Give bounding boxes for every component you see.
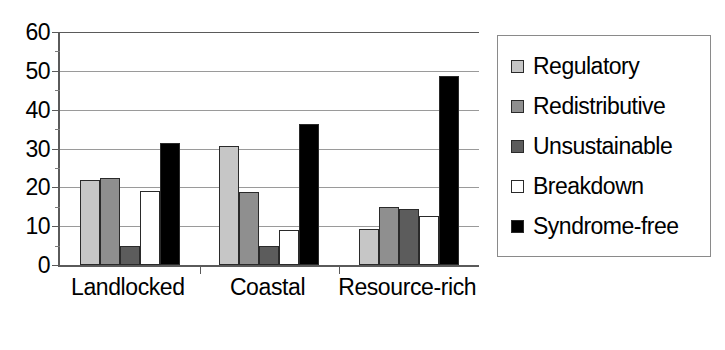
bar-resource-rich-syndrome-free — [439, 76, 459, 265]
bar-resource-rich-regulatory — [359, 229, 379, 266]
bar-landlocked-regulatory — [80, 180, 100, 265]
bar-coastal-unsustainable — [259, 246, 279, 265]
y-tick-label-30: 30 — [0, 137, 50, 160]
bar-chart-figure: 0102030405060 LandlockedCoastalResource-… — [0, 0, 725, 350]
legend-label-redistributive: Redistributive — [533, 95, 665, 118]
x-axis-category-labels: LandlockedCoastalResource-rich — [58, 274, 477, 308]
legend-item-redistributive[interactable]: Redistributive — [511, 86, 710, 126]
legend-swatch-unsustainable-icon — [511, 140, 524, 153]
legend-label-syndrome-free: Syndrome-free — [533, 215, 679, 238]
y-tick-mark-20 — [52, 187, 60, 188]
legend-item-regulatory[interactable]: Regulatory — [511, 46, 710, 86]
y-tick-label-40: 40 — [0, 98, 50, 121]
y-tick-label-50: 50 — [0, 59, 50, 82]
bar-landlocked-breakdown — [140, 191, 160, 265]
legend-item-syndrome-free[interactable]: Syndrome-free — [511, 206, 710, 246]
x-label-coastal: Coastal — [230, 274, 305, 301]
legend-label-unsustainable: Unsustainable — [533, 135, 672, 158]
x-label-landlocked: Landlocked — [71, 274, 185, 301]
chart-legend: RegulatoryRedistributiveUnsustainableBre… — [497, 35, 711, 257]
y-tick-mark-60 — [52, 32, 60, 33]
legend-label-regulatory: Regulatory — [533, 55, 639, 78]
bar-group-coastal — [200, 32, 340, 265]
bar-series-container — [60, 32, 479, 265]
bar-coastal-syndrome-free — [299, 124, 319, 265]
bar-resource-rich-redistributive — [379, 207, 399, 265]
bar-group-resource-rich — [339, 32, 479, 265]
y-tick-label-10: 10 — [0, 215, 50, 238]
bar-landlocked-unsustainable — [120, 246, 140, 265]
y-tick-mark-0 — [52, 265, 60, 266]
y-tick-label-0: 0 — [0, 254, 50, 277]
bar-group-landlocked — [60, 32, 200, 265]
legend-label-breakdown: Breakdown — [533, 175, 644, 198]
legend-swatch-breakdown-icon — [511, 180, 524, 193]
y-tick-mark-10 — [52, 226, 60, 227]
y-tick-mark-50 — [52, 71, 60, 72]
bar-resource-rich-unsustainable — [399, 209, 419, 265]
bar-resource-rich-breakdown — [419, 216, 439, 265]
bar-landlocked-redistributive — [100, 178, 120, 265]
legend-item-breakdown[interactable]: Breakdown — [511, 166, 710, 206]
x-tick-mark-1 — [200, 265, 201, 274]
y-tick-mark-40 — [52, 110, 60, 111]
legend-swatch-regulatory-icon — [511, 60, 524, 73]
y-tick-label-20: 20 — [0, 176, 50, 199]
x-tick-mark-2 — [339, 265, 340, 274]
y-tick-label-60: 60 — [0, 21, 50, 44]
plot-area — [58, 32, 479, 267]
bar-landlocked-syndrome-free — [160, 143, 180, 265]
x-label-resource-rich: Resource-rich — [338, 274, 476, 301]
bar-coastal-breakdown — [279, 230, 299, 265]
legend-swatch-syndrome-free-icon — [511, 220, 524, 233]
bar-coastal-regulatory — [219, 146, 239, 265]
y-tick-mark-30 — [52, 149, 60, 150]
legend-swatch-redistributive-icon — [511, 100, 524, 113]
legend-item-unsustainable[interactable]: Unsustainable — [511, 126, 710, 166]
y-axis-tick-labels: 0102030405060 — [0, 0, 50, 350]
bar-coastal-redistributive — [239, 192, 259, 265]
